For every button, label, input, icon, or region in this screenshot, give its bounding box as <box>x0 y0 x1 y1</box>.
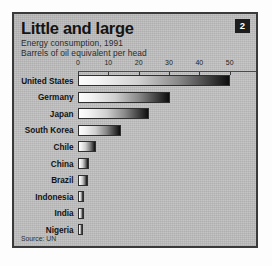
category-label: Brazil <box>51 176 73 185</box>
bar-row: South Korea <box>14 124 256 141</box>
bar <box>78 75 230 86</box>
x-axis-tick-label: 20 <box>135 59 143 66</box>
x-axis-tick-label: 10 <box>104 59 112 66</box>
category-label: Japan <box>50 110 74 119</box>
bar <box>78 125 121 136</box>
source-note: Source: UN <box>21 235 56 242</box>
x-axis-tick-label: 40 <box>195 59 203 66</box>
bar <box>78 92 170 103</box>
bar <box>78 191 84 202</box>
bar-row: United States <box>14 75 256 92</box>
bar <box>78 224 83 235</box>
x-axis-tick-label: 0 <box>76 59 80 66</box>
bar <box>78 158 89 169</box>
bar-row: Chile <box>14 141 256 158</box>
bar-row: Indonesia <box>14 191 256 208</box>
category-label: Nigeria <box>46 226 74 235</box>
category-label: Chile <box>53 143 73 152</box>
bar <box>78 175 88 186</box>
chart-frame: Little and large Energy consumption, 199… <box>12 12 258 248</box>
bar-row: Germany <box>14 91 256 108</box>
x-axis-tick-label: 50 <box>226 59 234 66</box>
bar-row: India <box>14 207 256 224</box>
bar-row: China <box>14 158 256 175</box>
bar <box>78 208 84 219</box>
plot-area: 0102030405060 United StatesGermanyJapanS… <box>14 14 256 246</box>
category-label: South Korea <box>25 126 74 135</box>
chart-figure: Little and large Energy consumption, 199… <box>0 0 272 266</box>
category-label: China <box>51 160 74 169</box>
bar-row: Brazil <box>14 174 256 191</box>
category-label: India <box>54 209 73 218</box>
bar <box>78 108 149 119</box>
category-label: United States <box>21 77 73 86</box>
x-axis-tick-label: 60 <box>256 59 258 66</box>
x-axis-tick-label: 30 <box>165 59 173 66</box>
bar-row: Japan <box>14 108 256 125</box>
category-label: Indonesia <box>35 193 73 202</box>
bar <box>78 141 96 152</box>
x-axis-line <box>78 71 258 72</box>
category-label: Germany <box>38 93 74 102</box>
